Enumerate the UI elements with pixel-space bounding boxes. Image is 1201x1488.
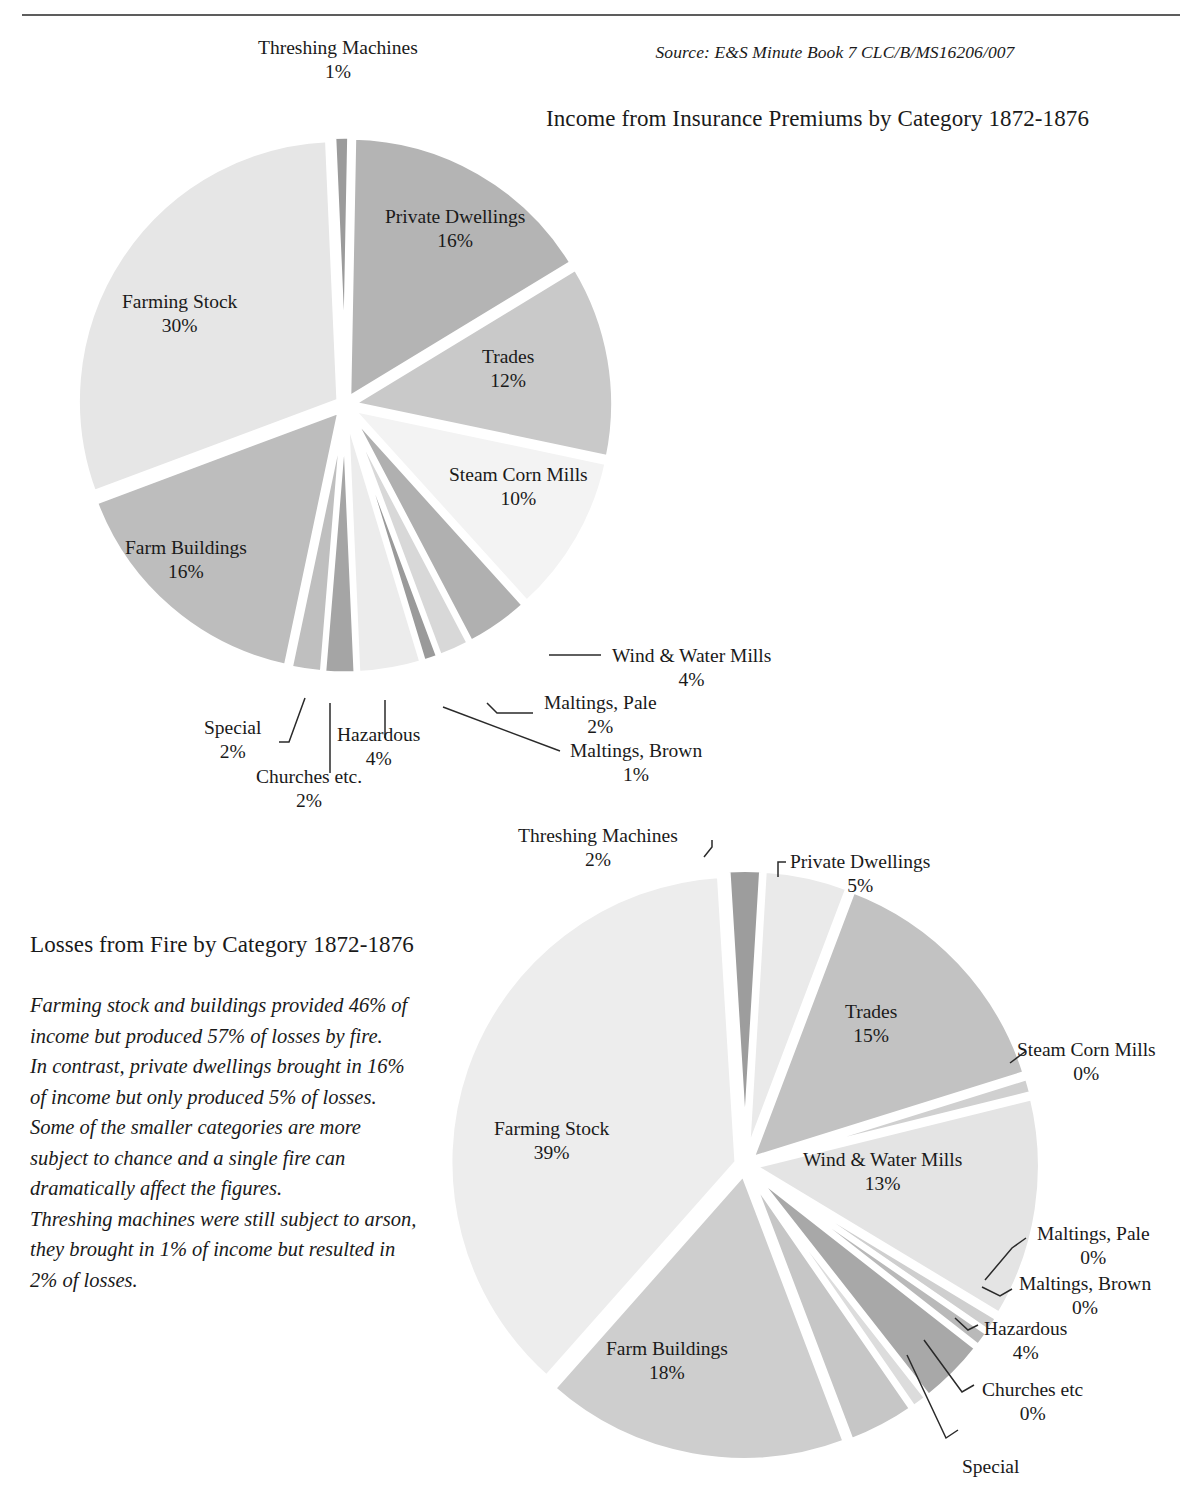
chart2-label-threshing-machines: Threshing Machines 2% xyxy=(518,824,678,872)
chart1-label-maltings-pale: Maltings, Pale 2% xyxy=(544,691,657,739)
chart2-label-farm-buildings: Farm Buildings 18% xyxy=(606,1337,728,1385)
commentary-paragraph-1: Farming stock and buildings provided 46%… xyxy=(30,990,422,1051)
chart2-label-maltings-pale: Maltings, Pale 0% xyxy=(1037,1222,1150,1270)
chart1-label-farming-stock: Farming Stock 30% xyxy=(122,290,237,338)
chart1-label-private-dwellings: Private Dwellings 16% xyxy=(385,205,525,253)
chart2-title: Losses from Fire by Category 1872-1876 xyxy=(30,932,414,958)
header-rule xyxy=(22,14,1180,16)
commentary-block: Farming stock and buildings provided 46%… xyxy=(30,990,422,1295)
document-page: Source: E&S Minute Book 7 CLC/B/MS16206/… xyxy=(0,0,1201,1488)
chart2-label-farming-stock: Farming Stock 39% xyxy=(494,1117,609,1165)
chart1-label-steam-corn-mills: Steam Corn Mills 10% xyxy=(449,463,588,511)
chart2-label-hazardous: Hazardous 4% xyxy=(984,1317,1067,1365)
chart1-label-threshing-machines: Threshing Machines 1% xyxy=(258,36,418,84)
chart2-label-churches: Churches etc 0% xyxy=(982,1378,1083,1426)
source-note: Source: E&S Minute Book 7 CLC/B/MS16206/… xyxy=(505,42,1165,63)
losses-pie-svg xyxy=(443,860,1059,1476)
chart1-label-churches: Churches etc. 2% xyxy=(256,765,362,813)
commentary-paragraph-3: Some of the smaller categories are more … xyxy=(30,1112,422,1204)
chart1-label-special: Special 2% xyxy=(204,716,261,764)
running-header xyxy=(0,0,1201,4)
chart1-label-hazardous: Hazardous 4% xyxy=(337,723,420,771)
chart2-label-maltings-brown: Maltings, Brown 0% xyxy=(1019,1272,1151,1320)
commentary-paragraph-2: In contrast, private dwellings brought i… xyxy=(30,1051,422,1112)
chart1-label-trades: Trades 12% xyxy=(482,345,534,393)
chart1-label-wind-water-mills: Wind & Water Mills 4% xyxy=(612,644,771,692)
chart2-label-special: Special xyxy=(962,1455,1019,1479)
commentary-paragraph-4: Threshing machines were still subject to… xyxy=(30,1204,422,1296)
chart2-label-trades: Trades 15% xyxy=(845,1000,897,1048)
chart2-label-private-dwellings: Private Dwellings 5% xyxy=(790,850,930,898)
losses-pie-chart xyxy=(443,860,1059,1476)
chart1-label-farm-buildings: Farm Buildings 16% xyxy=(125,536,247,584)
chart1-label-maltings-brown: Maltings, Brown 1% xyxy=(570,739,702,787)
chart2-label-wind-water-mills: Wind & Water Mills 13% xyxy=(803,1148,962,1196)
chart2-label-steam-corn-mills: Steam Corn Mills 0% xyxy=(1017,1038,1156,1086)
